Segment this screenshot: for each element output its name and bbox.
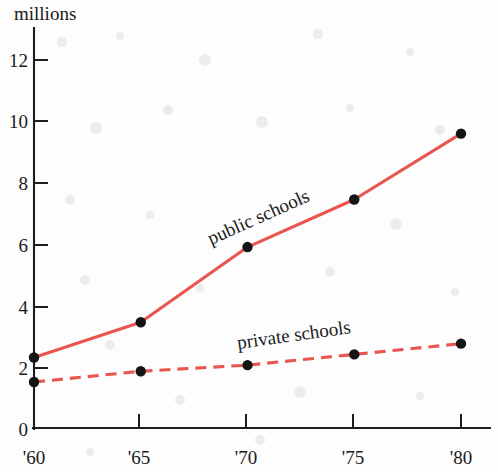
x-tick-marks: [139, 414, 461, 428]
x-tick-label-60: '60: [23, 447, 45, 468]
y-tick-label-0: 0: [19, 419, 29, 440]
data-point-private-65: [136, 366, 146, 376]
data-point-private-60: [29, 377, 39, 387]
x-tick-label-65: '65: [128, 447, 150, 468]
y-tick-label-8: 8: [19, 173, 29, 194]
x-tick-label-70: '70: [235, 447, 257, 468]
y-tick-marks: [34, 60, 48, 368]
y-tick-label-12: 12: [9, 50, 28, 71]
series-label-public: public schools: [204, 185, 312, 249]
x-tick-label-75: '75: [342, 447, 364, 468]
data-point-private-75: [349, 349, 359, 359]
x-tick-label-80: '80: [450, 447, 472, 468]
y-tick-label-4: 4: [19, 297, 29, 318]
y-tick-label-10: 10: [9, 111, 28, 132]
chart-figure: millions 12 10 8 6 4 2 0 '60 '65: [0, 0, 498, 472]
data-point-public-60: [29, 352, 39, 362]
data-point-private-80: [456, 338, 466, 348]
data-point-private-70: [242, 360, 252, 370]
series-label-private: private schools: [236, 316, 352, 353]
data-point-public-80: [456, 128, 466, 138]
y-tick-label-2: 2: [19, 358, 29, 379]
line-chart: millions 12 10 8 6 4 2 0 '60 '65: [0, 0, 498, 472]
data-point-public-65: [136, 317, 146, 327]
data-point-public-75: [349, 194, 359, 204]
data-point-public-70: [242, 242, 252, 252]
y-axis-title: millions: [14, 3, 76, 24]
y-tick-label-6: 6: [19, 235, 29, 256]
